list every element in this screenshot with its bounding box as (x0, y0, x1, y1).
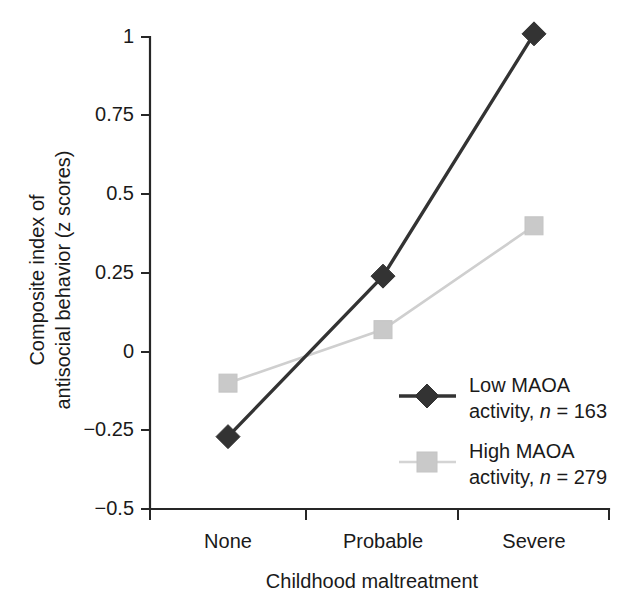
legend-entry-high-maoa[interactable]: High MAOA activity, n = 279 (399, 440, 607, 488)
y-tick-label: −0.25 (83, 418, 134, 440)
legend-high-suffix: = 279 (551, 466, 607, 488)
legend-square-icon (417, 452, 437, 472)
y-axis-title: Composite index of antisocial behavior (… (26, 151, 74, 410)
y-tick-label: 0.75 (95, 103, 134, 125)
x-axis-title: Childhood maltreatment (266, 570, 479, 592)
legend-low-italic-n: n (540, 400, 551, 422)
y-tick-label: 0.5 (106, 182, 134, 204)
y-axis-title-line2: antisocial behavior (z scores) (52, 151, 74, 410)
legend-label-high-line1: High MAOA (469, 440, 575, 462)
series-high-maoa-markers (219, 217, 543, 392)
legend-diamond-icon (415, 384, 439, 408)
x-tick-label-none: None (204, 530, 252, 552)
chart-figure: Composite index of antisocial behavior (… (0, 0, 629, 609)
data-point-marker[interactable] (219, 374, 237, 392)
y-axis-title-line1: Composite index of (26, 194, 48, 366)
data-point-marker[interactable] (525, 217, 543, 235)
x-tick-label-probable: Probable (343, 530, 423, 552)
x-axis-ticks (150, 509, 609, 520)
data-point-marker[interactable] (374, 321, 392, 339)
legend-entry-low-maoa[interactable]: Low MAOA activity, n = 163 (399, 374, 607, 422)
legend-label-low-line2: activity, n = 163 (469, 400, 607, 422)
series-high-maoa (219, 217, 543, 392)
series-high-maoa-line (228, 226, 534, 383)
y-tick-label: 0 (123, 340, 134, 362)
y-tick-label: 0.25 (95, 261, 134, 283)
x-tick-label-severe: Severe (502, 530, 565, 552)
line-chart: Composite index of antisocial behavior (… (0, 0, 629, 609)
y-axis-ticks (141, 37, 150, 509)
legend-label-low-line1: Low MAOA (469, 374, 571, 396)
legend-high-prefix: activity, (469, 466, 540, 488)
legend-label-high-line2: activity, n = 279 (469, 466, 607, 488)
legend-low-prefix: activity, (469, 400, 540, 422)
y-axis-tick-labels: 1 0.75 0.5 0.25 0 −0.25 −0.5 (83, 25, 134, 519)
x-axis-tick-labels: None Probable Severe (204, 530, 566, 552)
chart-legend: Low MAOA activity, n = 163 High MAOA act… (399, 374, 607, 488)
data-point-marker[interactable] (522, 22, 546, 46)
y-tick-label: −0.5 (95, 497, 134, 519)
y-tick-label: 1 (123, 25, 134, 47)
legend-high-italic-n: n (540, 466, 551, 488)
legend-low-suffix: = 163 (551, 400, 607, 422)
